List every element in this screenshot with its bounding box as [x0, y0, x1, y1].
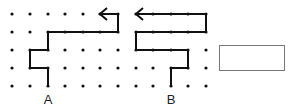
- grid-dot: [63, 84, 66, 87]
- grid-dot: [98, 66, 101, 69]
- grid-dot: [28, 84, 31, 87]
- grid-dot: [28, 30, 31, 33]
- label-a: A: [44, 92, 53, 107]
- grid-dot: [81, 84, 84, 87]
- grid-dot: [63, 12, 66, 15]
- grid-dot: [116, 48, 119, 51]
- path-a: [30, 14, 118, 86]
- grid-dot: [10, 30, 13, 33]
- grid-dot: [116, 84, 119, 87]
- grid-dot: [151, 66, 154, 69]
- grid-dot: [98, 48, 101, 51]
- grid-dot: [10, 48, 13, 51]
- grid-dot: [134, 66, 137, 69]
- label-b: B: [167, 92, 176, 107]
- grid-dot: [63, 48, 66, 51]
- grid-dot: [10, 12, 13, 15]
- grid-dot: [63, 66, 66, 69]
- grid-dot: [46, 12, 49, 15]
- grid-dot: [116, 66, 119, 69]
- grid-dot: [186, 84, 189, 87]
- grid-dot: [81, 12, 84, 15]
- grid-dot: [204, 48, 207, 51]
- answer-input-box[interactable]: [219, 45, 285, 71]
- grid-dot: [28, 12, 31, 15]
- grid-dot: [81, 66, 84, 69]
- grid-dot: [204, 84, 207, 87]
- grid-dot: [151, 84, 154, 87]
- path-b: [136, 14, 206, 86]
- grid-dot: [10, 66, 13, 69]
- grid-dot: [98, 84, 101, 87]
- grid-dot: [10, 84, 13, 87]
- grid-dot: [204, 66, 207, 69]
- grid-dot: [134, 84, 137, 87]
- grid-dot: [81, 48, 84, 51]
